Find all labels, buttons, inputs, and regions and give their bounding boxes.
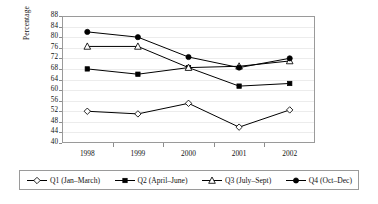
data-point-filled-circle xyxy=(186,54,191,59)
y-axis-tick-mark xyxy=(59,143,62,144)
x-axis-tick-label: 2001 xyxy=(219,150,259,158)
data-point-open-diamond xyxy=(185,100,191,106)
legend-key-filled-circle-icon xyxy=(285,176,307,185)
y-axis-tick-label: 64 xyxy=(40,76,58,83)
y-axis-tick-label: 60 xyxy=(40,86,58,93)
series-line xyxy=(87,32,289,68)
data-series-layer xyxy=(62,16,315,143)
x-axis-tick-mark xyxy=(214,143,215,147)
y-axis-title: Percentage xyxy=(22,0,34,40)
data-point-open-diamond xyxy=(236,124,242,130)
data-point-filled-square xyxy=(122,178,126,182)
data-point-filled-square xyxy=(136,72,140,76)
chart-figure: Percentage 40444852566064687276808488 19… xyxy=(0,0,378,204)
legend-key-filled-square-icon xyxy=(114,176,136,185)
data-point-filled-circle xyxy=(293,177,298,182)
y-axis-tick-label: 88 xyxy=(40,12,58,19)
data-point-filled-circle xyxy=(85,29,90,34)
x-axis-tick-label: 2000 xyxy=(169,150,209,158)
data-point-filled-circle xyxy=(237,65,242,70)
y-axis-tick-label: 40 xyxy=(40,139,58,146)
series-1 xyxy=(84,100,293,130)
data-point-filled-circle xyxy=(287,56,292,61)
data-point-filled-square xyxy=(237,84,241,88)
legend-key-open-triangle-icon xyxy=(201,176,223,185)
x-axis-tick-mark xyxy=(113,143,114,147)
data-point-open-diamond xyxy=(84,108,90,114)
x-axis-tick-mark xyxy=(264,143,265,147)
data-point-open-diamond xyxy=(135,111,141,117)
x-axis-tick-label: 1999 xyxy=(118,150,158,158)
legend-key-open-diamond-icon xyxy=(26,176,48,185)
x-axis-tick-mark xyxy=(163,143,164,147)
data-point-open-diamond xyxy=(34,177,40,183)
data-point-filled-circle xyxy=(135,35,140,40)
legend-label: Q1 (Jan–March) xyxy=(50,176,100,185)
legend-item-q2[interactable]: Q2 (April–June) xyxy=(114,176,188,185)
y-axis-tick-label: 44 xyxy=(40,128,58,135)
legend-item-q1[interactable]: Q1 (Jan–March) xyxy=(26,176,100,185)
y-axis-tick-label: 48 xyxy=(40,118,58,125)
y-axis-tick-label: 84 xyxy=(40,23,58,30)
legend-item-q3[interactable]: Q3 (July–Sept) xyxy=(201,176,271,185)
legend-label: Q4 (Oct–Dec) xyxy=(309,176,352,185)
legend-label: Q2 (April–June) xyxy=(138,176,188,185)
data-point-filled-square xyxy=(288,81,292,85)
x-axis-tick-label: 1998 xyxy=(67,150,107,158)
y-axis-tick-label: 56 xyxy=(40,97,58,104)
data-point-filled-square xyxy=(85,67,89,71)
y-axis-tick-label: 76 xyxy=(40,44,58,51)
y-axis-tick-label: 68 xyxy=(40,65,58,72)
legend-label: Q3 (July–Sept) xyxy=(225,176,271,185)
data-point-open-diamond xyxy=(287,107,293,113)
x-axis-tick-label: 2002 xyxy=(270,150,310,158)
y-axis-tick-label: 80 xyxy=(40,33,58,40)
y-axis-tick-label: 72 xyxy=(40,54,58,61)
y-axis-tick-label: 52 xyxy=(40,107,58,114)
chart-legend: Q1 (Jan–March)Q2 (April–June)Q3 (July–Se… xyxy=(19,170,359,190)
legend-item-q4[interactable]: Q4 (Oct–Dec) xyxy=(285,176,352,185)
